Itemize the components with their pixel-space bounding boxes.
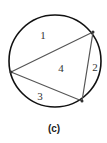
region-label-2: 2 [92,62,98,73]
circle [9,15,101,107]
region-label-1: 1 [40,30,46,41]
vertex-left [10,71,13,74]
vertex-top-right [92,31,95,34]
region-label-4: 4 [58,63,64,74]
region-label-3: 3 [37,91,43,102]
inscribed-triangle [11,32,93,101]
vertex-bottom-right [81,100,84,103]
figure-caption: (c) [48,123,60,134]
